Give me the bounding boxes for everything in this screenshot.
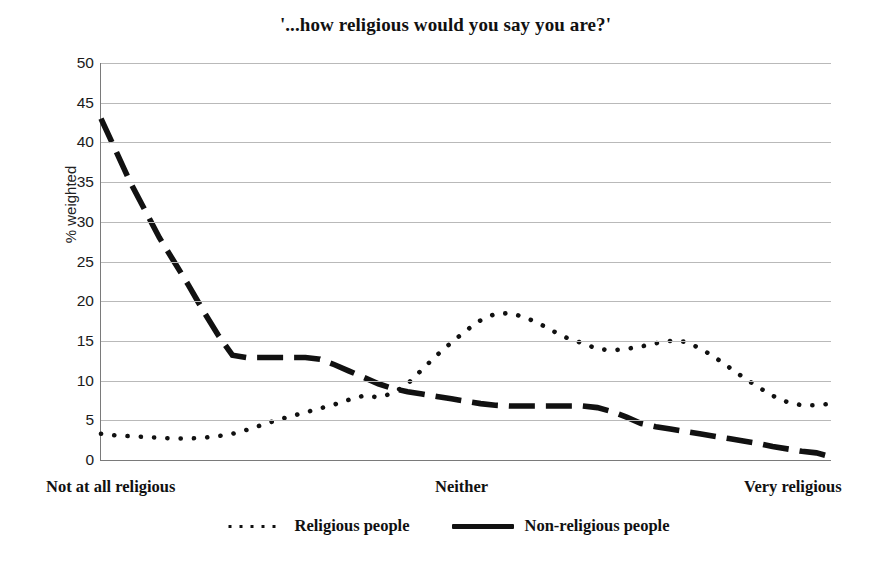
gridline-10 [101, 381, 831, 382]
legend-item-religious-people: Religious people [221, 516, 409, 536]
gridline-50 [101, 63, 831, 64]
y-tick-label-5: 5 [48, 412, 94, 428]
x-axis-label-left: Not at all religious [46, 477, 175, 497]
y-tick-label-0: 0 [48, 452, 94, 468]
legend-item-non-religious-people: Non-religious people [452, 516, 670, 536]
y-tick-label-10: 10 [48, 373, 94, 389]
chart-title: '...how religious would you say you are?… [0, 14, 891, 36]
gridline-15 [101, 341, 831, 342]
gridline-45 [101, 103, 831, 104]
gridline-20 [101, 301, 831, 302]
gridline-30 [101, 222, 831, 223]
gridline-25 [101, 262, 831, 263]
gridline-40 [101, 142, 831, 143]
religiosity-line-chart: '...how religious would you say you are?… [0, 0, 891, 563]
y-tick-label-50: 50 [48, 55, 94, 71]
x-axis-label-right: Very religious [744, 477, 842, 497]
plot-area [100, 63, 831, 461]
y-tick-label-20: 20 [48, 293, 94, 309]
gridline-5 [101, 420, 831, 421]
y-tick-label-30: 30 [48, 214, 94, 230]
gridline-35 [101, 182, 831, 183]
y-tick-label-35: 35 [48, 174, 94, 190]
legend-label-religious-people: Religious people [294, 516, 409, 536]
solid-line-swatch-icon [452, 524, 514, 529]
legend-label-non-religious-people: Non-religious people [525, 516, 670, 536]
series-non-religious-people-line [101, 119, 831, 457]
y-tick-label-40: 40 [48, 134, 94, 150]
y-tick-label-15: 15 [48, 333, 94, 349]
y-tick-label-45: 45 [48, 95, 94, 111]
chart-legend: Religious people Non-religious people [0, 516, 891, 536]
y-tick-label-25: 25 [48, 254, 94, 270]
x-axis-label-middle: Neither [435, 477, 488, 497]
gridline-0 [101, 460, 831, 461]
dotted-line-swatch-icon [221, 524, 283, 529]
